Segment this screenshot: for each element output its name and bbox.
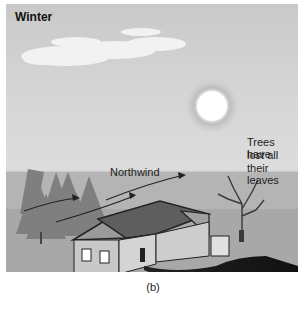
clouds-icon [21, 28, 186, 66]
wind-label: Northwind [110, 166, 160, 178]
winter-scene: Winter Northwind Trees have lost all the… [6, 4, 298, 272]
trees-label-line2: lost all [247, 149, 278, 161]
season-title: Winter [15, 10, 52, 24]
figure-caption: (b) [0, 281, 306, 293]
trees-label-line3: their leaves [247, 162, 298, 186]
